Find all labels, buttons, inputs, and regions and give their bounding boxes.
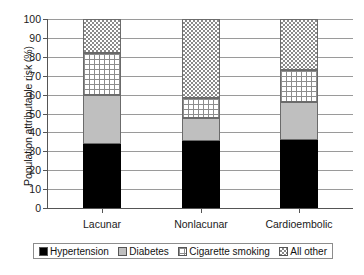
legend-label: Cigarette smoking bbox=[189, 246, 270, 257]
y-axis-tick bbox=[43, 170, 48, 171]
y-axis-tick bbox=[43, 132, 48, 133]
y-axis-tick-label: 70 bbox=[29, 70, 41, 81]
legend-item: Hypertension bbox=[39, 246, 109, 257]
y-axis-tick-label: 10 bbox=[29, 184, 41, 195]
y-axis-tick-label: 60 bbox=[29, 89, 41, 100]
bar-segment bbox=[182, 19, 220, 98]
legend-item: Cigarette smoking bbox=[178, 246, 270, 257]
stacked-bar bbox=[182, 19, 220, 208]
y-axis-tick-label: 50 bbox=[29, 108, 41, 119]
y-axis-tick bbox=[43, 114, 48, 115]
y-axis-tick bbox=[43, 95, 48, 96]
legend-item: All other bbox=[279, 246, 327, 257]
legend-swatch bbox=[178, 247, 187, 256]
bar-segment bbox=[182, 118, 220, 141]
y-axis-tick-label: 90 bbox=[29, 33, 41, 44]
x-axis-tick-label: Lacunar bbox=[83, 218, 121, 230]
bar-segment bbox=[182, 141, 220, 208]
y-axis-tick-label: 20 bbox=[29, 165, 41, 176]
x-axis-tick bbox=[102, 208, 103, 213]
y-axis-tick-label: 30 bbox=[29, 146, 41, 157]
bar-segment bbox=[83, 144, 121, 208]
x-axis-tick-label: Cardioembolic bbox=[265, 218, 332, 230]
bar-segment bbox=[83, 95, 121, 144]
y-axis-tick bbox=[43, 76, 48, 77]
figure-caption bbox=[0, 268, 364, 275]
x-axis-tick bbox=[201, 208, 202, 213]
y-axis-tick bbox=[43, 57, 48, 58]
legend-swatch bbox=[279, 247, 288, 256]
x-axis-tick-label: Nonlacunar bbox=[174, 218, 228, 230]
legend-label: Hypertension bbox=[50, 246, 109, 257]
bar-segment bbox=[280, 19, 318, 70]
x-axis-tick bbox=[299, 208, 300, 213]
legend-label: All other bbox=[290, 246, 327, 257]
y-axis-tick bbox=[43, 208, 48, 209]
y-axis-tick-label: 0 bbox=[35, 203, 41, 214]
bar-segment bbox=[280, 70, 318, 102]
y-axis-tick bbox=[43, 189, 48, 190]
stacked-bar bbox=[83, 19, 121, 208]
chart-legend: HypertensionDiabetesCigarette smokingAll… bbox=[33, 243, 333, 259]
legend-label: Diabetes bbox=[129, 246, 168, 257]
bar-segment bbox=[182, 98, 220, 118]
stacked-bar-chart-figure: Population attributable risk (%) 0102030… bbox=[0, 0, 364, 275]
bar-segment bbox=[280, 102, 318, 140]
y-axis-tick bbox=[43, 151, 48, 152]
y-axis-tick bbox=[43, 19, 48, 20]
plot-area: 0102030405060708090100 LacunarNonlacunar… bbox=[47, 19, 353, 209]
legend-swatch bbox=[39, 247, 48, 256]
y-axis-tick bbox=[43, 38, 48, 39]
y-axis-tick-label: 40 bbox=[29, 127, 41, 138]
stacked-bar bbox=[280, 19, 318, 208]
bar-segment bbox=[83, 53, 121, 95]
bar-segment bbox=[280, 140, 318, 208]
legend-item: Diabetes bbox=[118, 246, 168, 257]
bar-segment bbox=[83, 19, 121, 53]
legend-swatch bbox=[118, 247, 127, 256]
y-axis-tick-label: 80 bbox=[29, 52, 41, 63]
y-axis-tick-label: 100 bbox=[23, 14, 41, 25]
